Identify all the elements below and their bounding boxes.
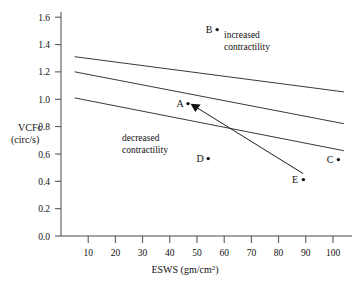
y-tick-label: 0.6 (38, 150, 50, 160)
data-point-C: C (327, 154, 340, 165)
x-axis-ticks (88, 236, 333, 243)
point-label-D: D (196, 153, 203, 164)
x-tick-label: 50 (192, 248, 202, 258)
point-label-B: B (206, 24, 213, 35)
y-axis-title-line1: VCFc (18, 122, 42, 133)
y-axis-ticks (55, 17, 61, 236)
data-point-D: D (196, 153, 210, 164)
y-tick-label: 1.6 (38, 13, 50, 23)
data-point-E: E (292, 174, 305, 185)
point-marker-C (337, 158, 340, 161)
x-tick-label: 70 (247, 248, 257, 258)
x-tick-label: 80 (274, 248, 284, 258)
y-tick-label: 0.2 (38, 204, 50, 214)
annotation-increased-line1: increased (224, 30, 260, 40)
x-tick-label: 20 (111, 248, 121, 258)
annotation-decreased-contractility: decreased contractility (122, 133, 168, 155)
annotation-increased-line2: contractility (224, 42, 270, 52)
series-lower-normal-limit (75, 98, 344, 151)
vcfc-esws-chart: 1.6 1.4 1.2 1.0 0.8 0.6 0.4 0.2 0.0 10 2… (0, 0, 360, 281)
x-tick-label: 30 (138, 248, 148, 258)
y-tick-label: 0.0 (38, 232, 50, 242)
y-tick-label: 1.2 (38, 67, 50, 77)
data-point-B: B (206, 24, 219, 35)
y-tick-label: 1.0 (38, 95, 50, 105)
therapy-response-arrow (191, 104, 304, 174)
y-axis-title-line2: (circ/s) (11, 134, 39, 146)
annotation-decreased-line2: contractility (122, 145, 168, 155)
x-axis-title-base: ESWS (gm/cm (151, 264, 211, 276)
x-axis-title: ESWS (gm/cm2) (151, 264, 218, 277)
point-marker-A (186, 102, 189, 105)
x-tick-label: 100 (326, 248, 341, 258)
point-label-A: A (176, 98, 184, 109)
annotation-increased-contractility: increased contractility (224, 30, 270, 52)
point-label-E: E (292, 174, 298, 185)
x-tick-label: 90 (301, 248, 311, 258)
point-marker-E (302, 178, 305, 181)
x-tick-label: 10 (83, 248, 93, 258)
series-upper-normal-limit (75, 57, 344, 92)
annotation-decreased-line1: decreased (122, 133, 160, 143)
y-tick-label: 0.4 (38, 177, 50, 187)
x-axis-title-tail: ) (215, 264, 218, 276)
chart-container: 1.6 1.4 1.2 1.0 0.8 0.6 0.4 0.2 0.0 10 2… (0, 0, 360, 281)
point-marker-B (216, 28, 219, 31)
x-tick-label: 60 (219, 248, 229, 258)
point-label-C: C (327, 154, 334, 165)
point-marker-D (207, 157, 210, 160)
data-point-A: A (176, 98, 189, 109)
y-tick-label: 1.4 (38, 40, 50, 50)
x-tick-label: 40 (165, 248, 175, 258)
